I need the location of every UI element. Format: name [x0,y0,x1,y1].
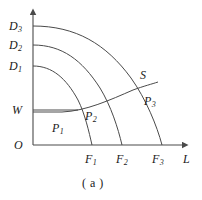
plot-canvas [0,0,202,200]
economics-figure: D3 D2 D1 W O F1 F2 F3 L S P1 P2 P3 ( a ) [0,0,202,200]
figure-caption: ( a ) [82,176,104,191]
origin-label: O [14,139,23,151]
x-tick-label-f1: F1 [85,153,97,167]
region-label-p2: P2 [85,110,97,124]
x-tick-label-f2: F2 [116,153,128,167]
supply-curve-s [33,82,158,112]
x-tick-label-f3: F3 [152,153,164,167]
y-tick-label-d3: D3 [9,20,22,34]
x-axis-label: L [183,153,190,165]
supply-curve-label: S [140,69,146,81]
y-tick-label-d1: D1 [9,60,22,74]
region-label-p1: P1 [52,122,64,136]
y-tick-label-d2: D2 [9,39,22,53]
region-label-p3: P3 [144,95,156,109]
y-tick-label-w: W [12,104,22,116]
demand-curve-d2 [33,45,122,145]
